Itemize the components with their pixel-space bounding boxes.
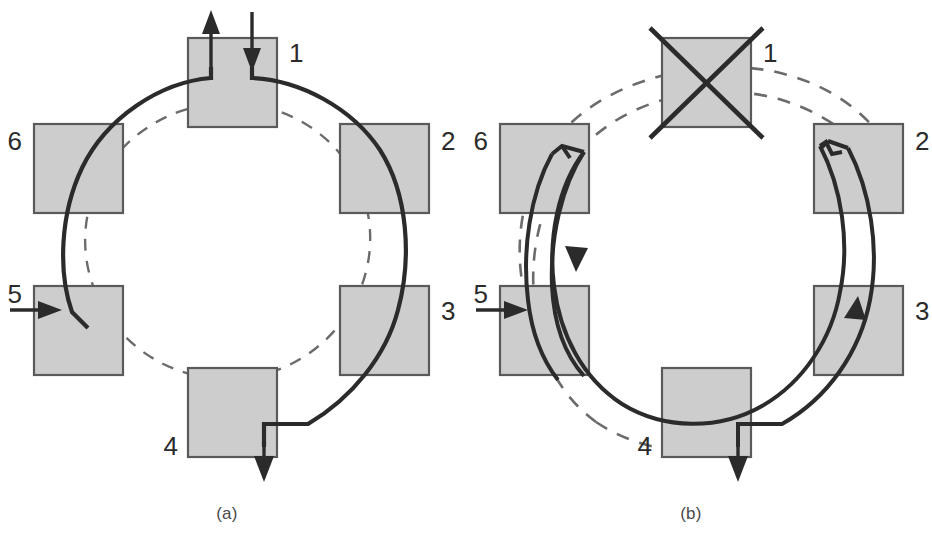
node-6-label: 6: [474, 126, 488, 156]
caption-b: (b): [458, 504, 924, 524]
node-3-label: 3: [441, 296, 455, 326]
node-2-label: 2: [441, 126, 455, 156]
node-4: 4: [164, 368, 277, 461]
panel-b: 6 5 1 4 2: [466, 0, 932, 540]
node-6-label: 6: [8, 126, 22, 156]
node-3-label: 3: [915, 296, 929, 326]
node-4: 4: [638, 368, 751, 461]
node-1: 1: [662, 38, 777, 127]
diagram-b-svg: 6 5 1 4 2: [466, 0, 932, 500]
node-5-label: 5: [8, 279, 22, 309]
node-6: 6: [8, 124, 123, 213]
panel-a: 6 5 1 4 2: [0, 0, 466, 540]
figure-ring-reconfiguration: 6 5 1 4 2: [0, 0, 932, 540]
flow-arrowhead-node6: [565, 246, 588, 272]
node-2: 2: [340, 124, 455, 213]
caption-a: (a): [0, 504, 460, 524]
node-4-label: 4: [638, 431, 652, 461]
node-2-label: 2: [915, 126, 929, 156]
node-4-label: 4: [164, 431, 178, 461]
node-1-label: 1: [289, 38, 303, 68]
node-5-label: 5: [474, 279, 488, 309]
node-1-label: 1: [763, 38, 777, 68]
node-3: 3: [340, 286, 455, 375]
diagram-a-svg: 6 5 1 4 2: [0, 0, 466, 500]
